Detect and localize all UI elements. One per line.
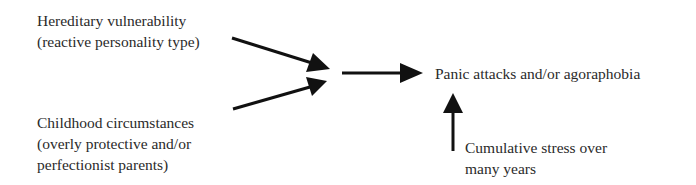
arrows-layer [0, 0, 696, 185]
arrow-junction-to-outcome [342, 63, 423, 83]
arrow-hereditary-to-junction [232, 38, 330, 72]
arrow-stress-to-outcome [443, 93, 463, 151]
arrow-childhood-to-junction [233, 77, 327, 109]
